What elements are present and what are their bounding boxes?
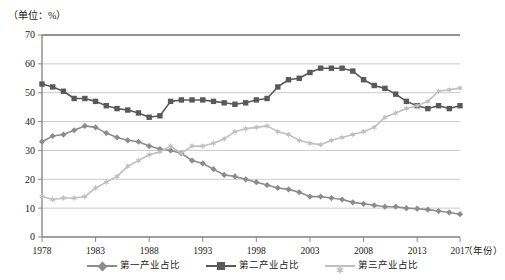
- x-axis-tick-label: 2008: [354, 246, 373, 256]
- square-marker: [447, 106, 452, 111]
- series-3: [39, 85, 463, 203]
- series-line: [42, 126, 460, 214]
- diamond-marker: [253, 179, 259, 185]
- square-marker: [179, 97, 184, 102]
- diamond-marker: [243, 176, 249, 182]
- diamond-marker: [457, 211, 463, 217]
- diamond-marker: [39, 139, 45, 145]
- x-axis-tick-label: 2013: [408, 246, 427, 256]
- diamond-marker: [307, 194, 313, 200]
- square-marker: [232, 102, 237, 107]
- square-marker: [254, 97, 259, 102]
- square-marker: [168, 99, 173, 104]
- legend-item-1[interactable]: 第一产业占比: [87, 261, 180, 271]
- square-marker: [157, 113, 162, 118]
- square-marker: [297, 76, 302, 81]
- x-axis-tick-label: 1978: [33, 246, 52, 256]
- square-marker: [372, 83, 377, 88]
- x-axis-name-label: （年份）: [463, 245, 503, 256]
- y-axis-tick-label: 10: [25, 203, 35, 214]
- diamond-marker: [446, 209, 452, 215]
- star-marker: [103, 179, 109, 186]
- square-marker: [82, 96, 87, 101]
- diamond-marker: [339, 196, 345, 202]
- diamond-marker: [371, 202, 377, 208]
- square-marker: [393, 91, 398, 96]
- square-marker: [457, 103, 462, 108]
- square-marker: [275, 84, 280, 89]
- diamond-marker: [403, 205, 409, 211]
- legend-item-3[interactable]: 第三产业占比: [325, 261, 418, 271]
- x-axis-tick-label: 1998: [247, 246, 266, 256]
- diamond-marker: [71, 127, 77, 133]
- square-marker: [71, 96, 76, 101]
- square-marker: [329, 65, 334, 70]
- series-1: [39, 123, 463, 218]
- star-marker: [335, 261, 345, 271]
- diamond-marker: [285, 186, 291, 192]
- x-axis-tick-label: 1983: [86, 246, 105, 256]
- square-marker: [211, 99, 216, 104]
- y-axis-tick-label: 50: [25, 87, 35, 98]
- diamond-marker: [114, 134, 120, 140]
- y-axis-tick-label: 60: [25, 58, 35, 69]
- diamond-marker: [382, 204, 388, 210]
- square-marker: [125, 107, 130, 112]
- square-marker: [436, 103, 441, 108]
- legend-item-label: 第三产业占比: [358, 261, 418, 271]
- legend-marker-square-marker: [206, 261, 236, 271]
- square-marker: [350, 68, 355, 73]
- diamond-marker: [275, 185, 281, 191]
- square-marker: [146, 115, 151, 120]
- square-marker: [425, 106, 430, 111]
- x-axis-tick-label: 1988: [140, 246, 159, 256]
- diamond-marker: [221, 172, 227, 178]
- star-glyph: [335, 265, 345, 275]
- square-marker: [361, 77, 366, 82]
- square-marker: [39, 81, 44, 86]
- diamond-marker: [210, 166, 216, 172]
- square-marker: [61, 89, 66, 94]
- diamond-marker: [360, 201, 366, 207]
- diamond-marker: [82, 123, 88, 129]
- legend-marker-star-marker: [325, 261, 355, 271]
- diamond-marker: [200, 160, 206, 166]
- chart-plot-area: 0102030405060701978198319881993199820032…: [0, 0, 505, 258]
- legend-item-2[interactable]: 第二产业占比: [206, 261, 299, 271]
- chart-legend: 第一产业占比第二产业占比第三产业占比: [0, 261, 505, 271]
- square-marker: [217, 262, 225, 270]
- square-marker: [382, 86, 387, 91]
- square-marker: [189, 97, 194, 102]
- y-axis-tick-label: 20: [25, 174, 35, 185]
- diamond-marker: [425, 206, 431, 212]
- diamond-marker: [92, 124, 98, 130]
- square-marker: [50, 84, 55, 89]
- diamond-marker: [232, 173, 238, 179]
- x-axis-tick-label: 2003: [300, 246, 319, 256]
- square-marker: [264, 96, 269, 101]
- diamond-marker: [414, 206, 420, 212]
- y-axis-tick-label: 40: [25, 116, 35, 127]
- y-axis-tick-label: 0: [30, 231, 35, 242]
- square-marker: [114, 106, 119, 111]
- diamond-marker: [435, 208, 441, 214]
- square-marker: [136, 110, 141, 115]
- x-axis-tick-label: 1993: [193, 246, 212, 256]
- diamond-marker: [318, 194, 324, 200]
- diamond-marker: [103, 130, 109, 136]
- legend-marker-diamond-marker: [87, 261, 117, 271]
- diamond-marker: [50, 133, 56, 139]
- diamond-marker: [296, 189, 302, 195]
- square-marker: [286, 77, 291, 82]
- diamond-marker: [125, 137, 131, 143]
- chart-container: （单位：%） 010203040506070197819831988199319…: [0, 0, 505, 280]
- y-axis-tick-label: 30: [25, 145, 35, 156]
- diamond-marker: [135, 139, 141, 145]
- diamond-marker: [350, 199, 356, 205]
- square-marker: [93, 99, 98, 104]
- diamond-marker: [60, 131, 66, 137]
- star-marker: [168, 143, 174, 150]
- diamond-marker: [393, 204, 399, 210]
- diamond-marker: [146, 143, 152, 149]
- square-marker: [318, 65, 323, 70]
